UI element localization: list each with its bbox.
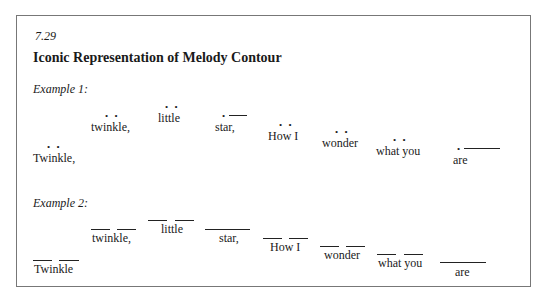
lyric-word: what you [378, 256, 422, 271]
example2-label: Example 2: [33, 196, 88, 211]
note-bar [404, 254, 423, 255]
note-bar [320, 246, 339, 247]
note-dot: • [457, 146, 462, 152]
note-dot: • [222, 113, 227, 119]
note-bar [377, 254, 396, 255]
note-dots: • • [47, 144, 62, 150]
figure-number: 7.29 [35, 29, 56, 44]
note-dots: • • [165, 104, 180, 110]
note-bar [91, 229, 110, 230]
lyric-word: are [453, 153, 468, 168]
note-bar [117, 229, 136, 230]
note-bar-long [205, 229, 250, 230]
note-bar [148, 220, 167, 221]
figure-title: Iconic Representation of Melody Contour [33, 50, 282, 66]
lyric-word: How I [268, 129, 298, 144]
held-note-line [229, 115, 247, 116]
note-bar [33, 260, 52, 261]
example1-label: Example 1: [33, 82, 88, 97]
note-bar-long [440, 262, 486, 263]
lyric-word: twinkle, [91, 120, 130, 135]
note-dots: • • [279, 122, 294, 128]
lyric-word: How I [270, 240, 300, 255]
lyric-word: twinkle, [92, 231, 131, 246]
lyric-word: Twinkle, [33, 151, 75, 166]
lyric-word: wonder [324, 248, 360, 263]
lyric-word: little [158, 111, 180, 126]
lyric-word: wonder [322, 136, 358, 151]
lyric-word: what you [376, 144, 420, 159]
note-bar [346, 246, 365, 247]
note-bar [263, 238, 282, 239]
lyric-word: little [161, 222, 183, 237]
lyric-word: are [455, 265, 470, 280]
note-dots: • • [335, 129, 350, 135]
lyric-word: Twinkle [34, 262, 73, 277]
note-bar [59, 260, 79, 261]
note-dots: • • [105, 113, 120, 119]
lyric-word: star, [219, 231, 239, 246]
note-bar [289, 238, 308, 239]
note-dots: • • [393, 137, 408, 143]
held-note-line [464, 148, 500, 149]
note-bar [175, 220, 194, 221]
lyric-word: star, [215, 120, 235, 135]
